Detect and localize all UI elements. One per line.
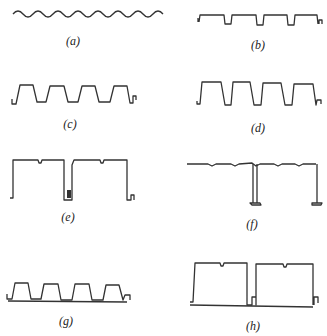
- caption-c: (c): [63, 117, 76, 132]
- caption-g: (g): [59, 314, 73, 329]
- profile-c: [12, 85, 136, 104]
- caption-d: (d): [251, 121, 265, 136]
- profile-b: [198, 15, 322, 25]
- profile-g: [7, 283, 130, 300]
- caption-a: (a): [66, 34, 80, 49]
- profile-d: [197, 82, 321, 105]
- profiled-sheet-diagram: [0, 0, 327, 336]
- profile-a: [13, 11, 163, 17]
- caption-e: (e): [61, 210, 74, 225]
- profile-e: [10, 160, 134, 200]
- caption-f: (f): [246, 217, 257, 232]
- profile-h: [190, 263, 318, 305]
- caption-b: (b): [251, 38, 265, 53]
- caption-h: (h): [246, 319, 260, 334]
- profile-f: [187, 163, 316, 166]
